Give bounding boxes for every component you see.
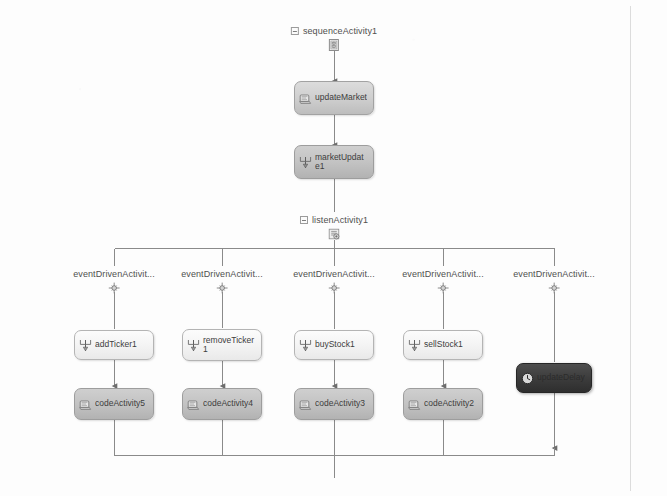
handle-event-icon <box>299 339 312 352</box>
listen-activity-icon <box>327 227 341 241</box>
code-activity-3-label: codeActivity3 <box>315 399 365 409</box>
code-activity-icon <box>299 92 312 105</box>
delay-activity-icon <box>521 372 534 385</box>
handle-event-icon <box>299 156 312 169</box>
code-activity-2-label: codeActivity2 <box>424 399 474 409</box>
buy-stock-activity-label: buyStock1 <box>315 340 355 350</box>
connector-lines <box>0 0 667 496</box>
code-activity-icon <box>408 398 421 411</box>
buy-stock-activity[interactable]: buyStock1 <box>294 330 374 360</box>
add-ticker-activity-label: addTicker1 <box>95 340 137 350</box>
listen-activity-1-label: listenActivity1 <box>312 215 368 225</box>
event-driven-activity-5-header[interactable]: eventDrivenActivit... <box>513 269 595 295</box>
event-driven-activity-icon <box>327 281 341 295</box>
remove-ticker-activity[interactable]: removeTicker1 <box>182 329 262 361</box>
event-driven-activity-4-header[interactable]: eventDrivenActivit... <box>402 269 484 295</box>
update-delay-activity-label: updateDelay <box>537 373 585 383</box>
sequence-activity-1-label: sequenceActivity1 <box>303 26 377 36</box>
event-driven-activity-3-header[interactable]: eventDrivenActivit... <box>293 269 375 295</box>
collapse-expander-icon[interactable] <box>300 216 308 224</box>
code-activity-5-label: codeActivity5 <box>95 399 145 409</box>
update-market-activity-label: updateMarket <box>315 93 367 103</box>
handle-event-icon <box>187 339 200 352</box>
add-ticker-activity[interactable]: addTicker1 <box>74 330 154 360</box>
code-activity-icon <box>187 398 200 411</box>
event-driven-activity-1-header[interactable]: eventDrivenActivit... <box>73 269 155 295</box>
code-activity-2[interactable]: codeActivity2 <box>403 388 483 420</box>
code-activity-icon <box>79 398 92 411</box>
remove-ticker-activity-label: removeTicker1 <box>203 336 256 355</box>
event-driven-activity-icon <box>107 281 121 295</box>
event-driven-activity-3-label: eventDrivenActivit... <box>293 269 375 279</box>
update-market-activity[interactable]: updateMarket <box>294 81 374 115</box>
designer-page-rule <box>630 6 631 491</box>
event-driven-activity-5-label: eventDrivenActivit... <box>513 269 595 279</box>
sequence-activity-icon <box>327 38 341 52</box>
update-delay-activity[interactable]: updateDelay <box>516 363 592 393</box>
workflow-designer-canvas[interactable]: sequenceActivity1 listenActivity1 eventD… <box>0 0 667 496</box>
listen-activity-1-header[interactable]: listenActivity1 <box>300 215 368 241</box>
code-activity-5[interactable]: codeActivity5 <box>74 388 154 420</box>
event-driven-activity-4-label: eventDrivenActivit... <box>402 269 484 279</box>
handle-event-icon <box>79 339 92 352</box>
sell-stock-activity-label: sellStock1 <box>424 340 463 350</box>
sequence-activity-1-header[interactable]: sequenceActivity1 <box>291 26 377 52</box>
code-activity-4-label: codeActivity4 <box>203 399 253 409</box>
market-update-activity-label: marketUpdate1 <box>315 153 368 172</box>
event-driven-activity-icon <box>547 281 561 295</box>
event-driven-activity-2-header[interactable]: eventDrivenActivit... <box>181 269 263 295</box>
code-activity-icon <box>299 398 312 411</box>
collapse-expander-icon[interactable] <box>291 27 299 35</box>
code-activity-4[interactable]: codeActivity4 <box>182 388 262 420</box>
event-driven-activity-2-label: eventDrivenActivit... <box>181 269 263 279</box>
handle-event-icon <box>408 339 421 352</box>
event-driven-activity-icon <box>436 281 450 295</box>
sell-stock-activity[interactable]: sellStock1 <box>403 330 483 360</box>
event-driven-activity-icon <box>215 281 229 295</box>
event-driven-activity-1-label: eventDrivenActivit... <box>73 269 155 279</box>
market-update-activity[interactable]: marketUpdate1 <box>294 145 374 179</box>
code-activity-3[interactable]: codeActivity3 <box>294 388 374 420</box>
